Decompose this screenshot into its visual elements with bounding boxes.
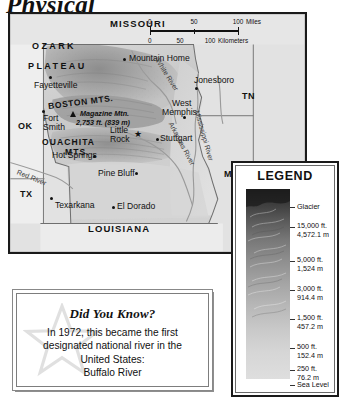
legend-tick-15000 xyxy=(290,227,295,228)
did-you-know-heading: Did You Know? xyxy=(17,306,208,322)
peak-label-magazine-mtn: Magazine Mtn. xyxy=(80,110,129,118)
legend-tick-3000 xyxy=(290,290,295,291)
city-dot-fayetteville xyxy=(49,76,52,79)
legend-tick-1500 xyxy=(290,319,295,320)
did-you-know-answer: Buffalo River xyxy=(17,367,208,378)
city-dot-el-dorado xyxy=(112,206,115,209)
city-label-hot-springs: Hot Springs xyxy=(52,151,97,160)
legend-1500-m: 457.2 m xyxy=(297,322,323,331)
peak-elevation-label: 2,753 ft. (839 m) xyxy=(76,119,130,127)
legend-5000-m: 1,524 m xyxy=(297,264,323,273)
state-label-tx: TX xyxy=(20,190,33,199)
legend-title: LEGEND xyxy=(233,169,337,183)
city-label-rock: Rock xyxy=(110,135,130,144)
scale-km-tick-50: 50 xyxy=(176,37,183,44)
legend-tick-250 xyxy=(290,370,295,371)
city-label-pine-bluff: Pine Bluff xyxy=(98,169,135,178)
city-dot-stuttgart xyxy=(156,138,159,141)
legend-label-1500: 1,500 ft. 457.2 m xyxy=(297,314,323,332)
mountain-peak-icon xyxy=(70,111,76,117)
did-you-know-panel[interactable]: Did You Know? In 1972, this became the f… xyxy=(12,289,213,391)
region-label-plateau: PLATEAU xyxy=(28,62,87,71)
legend-500-ft: 500 ft. xyxy=(297,342,317,351)
legend-15000-m: 4,572.1 m xyxy=(297,230,329,239)
legend-250-ft: 250 ft. xyxy=(297,364,317,373)
legend-label-5000: 5,000 ft. 1,524 m xyxy=(297,256,323,274)
scale-miles-tick-50: 50 xyxy=(190,18,197,25)
city-label-texarkana: Texarkana xyxy=(55,201,95,210)
legend-tick-5000 xyxy=(290,261,295,262)
legend-tick-500 xyxy=(290,348,295,349)
legend-label-glacier: Glacier xyxy=(297,203,320,210)
legend-panel[interactable]: LEGEND Glacier xyxy=(231,161,339,397)
scale-km-numbers: 0 50 100 Kilometers xyxy=(148,37,256,46)
scale-tick-end xyxy=(238,27,239,35)
state-label-ok: OK xyxy=(18,122,33,131)
city-dot-pine-bluff xyxy=(135,172,138,175)
scale-miles-tick-100: 100 xyxy=(233,18,244,25)
legend-5000-ft: 5,000 ft. xyxy=(297,255,323,264)
scale-km-tick-100: 100 xyxy=(205,37,216,44)
legend-label-15000: 15,000 ft. 4,572.1 m xyxy=(297,222,329,240)
city-label-el-dorado: El Dorado xyxy=(117,202,155,211)
scale-tick-mid xyxy=(194,29,195,34)
legend-terrain-texture xyxy=(246,189,290,379)
capital-star-little-rock: ★ xyxy=(134,130,142,139)
state-label-louisiana: LOUISIANA xyxy=(88,224,150,234)
legend-3000-m: 914.4 m xyxy=(297,293,323,302)
legend-elevation-gradient xyxy=(246,189,290,379)
did-you-know-inner: Did You Know? In 1972, this became the f… xyxy=(16,293,209,387)
city-dot-texarkana xyxy=(50,197,53,200)
state-label-missouri: MISSOURI xyxy=(110,19,166,29)
legend-label-500: 500 ft. 152.4 m xyxy=(297,343,323,361)
legend-label-3000: 3,000 ft. 914.4 m xyxy=(297,285,323,303)
did-you-know-body: In 1972, this became the first designate… xyxy=(27,326,198,366)
state-label-tn: TN xyxy=(242,92,255,101)
city-dot-mountain-home xyxy=(123,58,126,61)
legend-tick-sea-level xyxy=(290,385,295,386)
legend-15000-ft: 15,000 ft. xyxy=(297,221,327,230)
region-label-ouachita: OUACHITA xyxy=(42,138,95,147)
legend-500-m: 152.4 m xyxy=(297,351,323,360)
city-label-smith: Smith xyxy=(43,123,65,132)
city-label-memphis: Memphis xyxy=(162,108,197,117)
legend-label-sea-level: Sea Level xyxy=(297,381,329,388)
scale-km-unit: Kilometers xyxy=(218,37,248,44)
scale-km-tick-0: 0 xyxy=(148,37,152,44)
scale-miles-unit: Miles xyxy=(246,18,261,25)
city-label-fayetteville: Fayetteville xyxy=(34,81,77,90)
region-label-ozark: OZARK xyxy=(32,42,76,51)
city-dot-jonesboro xyxy=(195,87,198,90)
legend-tick-glacier xyxy=(290,207,295,208)
legend-1500-ft: 1,500 ft. xyxy=(297,313,323,322)
legend-3000-ft: 3,000 ft. xyxy=(297,284,323,293)
city-label-jonesboro: Jonesboro xyxy=(194,76,234,85)
